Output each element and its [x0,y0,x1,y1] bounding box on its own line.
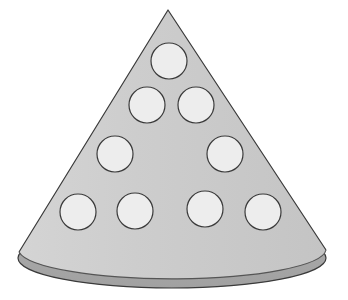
circle-r1-c1-shape [151,43,187,79]
cone-diagram [0,0,348,300]
circle-r4-c3-shape [187,191,223,227]
circle-r2-c1-shape [129,87,165,123]
circle-r2-c2-shape [178,87,214,123]
circle-r4-c4-shape [245,194,281,230]
circle-r4-c1-shape [60,194,96,230]
circle-r3-c2-shape [207,136,243,172]
circle-r3-c1-shape [97,136,133,172]
figure-canvas [0,0,348,300]
circle-r4-c2-shape [117,193,153,229]
